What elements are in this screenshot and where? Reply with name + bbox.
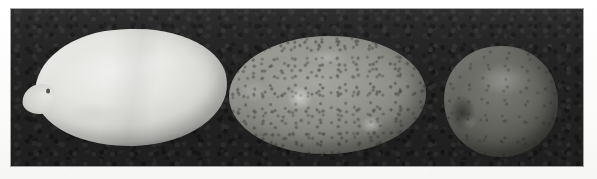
specimen-2-body xyxy=(228,34,427,155)
figure-root xyxy=(0,0,597,179)
specimen-3-body xyxy=(441,43,561,160)
specimen-1-body xyxy=(33,25,230,150)
specimen-2-medium-speckled-potato xyxy=(229,36,426,154)
specimen-3-small-dark-potato xyxy=(444,46,558,157)
specimen-1-large-pale-potato xyxy=(35,29,227,146)
specimen-1-eye-mark xyxy=(46,89,50,94)
photograph-panel xyxy=(11,9,583,166)
